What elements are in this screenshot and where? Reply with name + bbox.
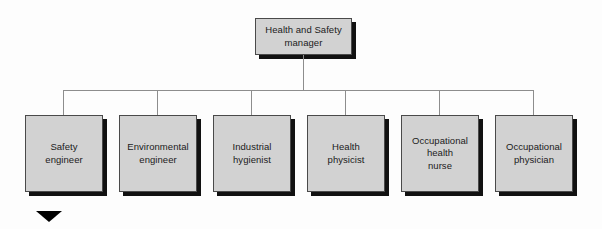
node-environmental-engineer[interactable]: Environmental engineer	[119, 115, 197, 192]
connector-drop-3	[251, 90, 252, 115]
down-triangle-marker	[36, 211, 62, 222]
node-label: Health physicist	[324, 141, 369, 166]
node-label: Occupational physician	[502, 141, 566, 166]
connector-drop-6	[533, 90, 534, 115]
node-label: Environmental engineer	[123, 141, 192, 166]
connector-bus-bar	[63, 90, 533, 91]
connector-root-stem	[303, 55, 304, 90]
node-occupational-health-nurse[interactable]: Occupational health nurse	[401, 115, 479, 192]
node-label: Industrial hygienist	[228, 141, 275, 166]
node-label: Health and Safety manager	[261, 24, 345, 49]
connector-drop-5	[439, 90, 440, 115]
node-health-physicist[interactable]: Health physicist	[307, 115, 385, 192]
connector-drop-2	[157, 90, 158, 115]
connector-drop-4	[345, 90, 346, 115]
node-safety-engineer[interactable]: Safety engineer	[25, 115, 103, 192]
node-health-and-safety-manager[interactable]: Health and Safety manager	[255, 18, 352, 55]
node-industrial-hygienist[interactable]: Industrial hygienist	[213, 115, 291, 192]
node-label: Safety engineer	[41, 141, 86, 166]
node-label: Occupational health nurse	[408, 135, 472, 173]
connector-drop-1	[63, 90, 64, 115]
org-chart-diagram: Health and Safety manager Safety enginee…	[0, 0, 602, 229]
node-occupational-physician[interactable]: Occupational physician	[495, 115, 573, 192]
